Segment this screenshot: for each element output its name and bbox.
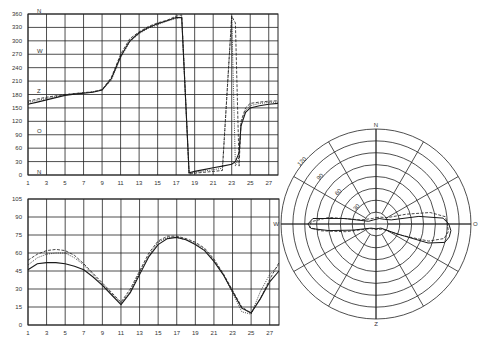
x-tick-label: 21 <box>211 330 218 336</box>
chart-figure: 1357911131517192123252703060901201501802… <box>0 0 479 345</box>
y-tick-label: 30 <box>15 286 22 292</box>
direction-label: W <box>273 221 279 227</box>
y-tick-label: 90 <box>15 214 22 220</box>
x-tick-label: 19 <box>191 180 198 186</box>
x-tick-label: 9 <box>100 180 104 186</box>
x-tick-label: 13 <box>136 330 143 336</box>
data-line-series-1 <box>28 237 279 313</box>
x-tick-label: 7 <box>82 180 86 186</box>
polar-chart: NZWO306090120 <box>273 122 478 327</box>
x-tick-label: 17 <box>173 180 180 186</box>
y-tick-label: 105 <box>12 196 23 202</box>
data-line-series-3 <box>28 16 278 174</box>
y-tick-label: 15 <box>15 304 22 310</box>
y-tick-label: 330 <box>12 24 23 30</box>
y-tick-label: 60 <box>15 145 22 151</box>
direction-annotation: N <box>37 169 41 175</box>
data-line-series-2 <box>28 236 279 313</box>
x-tick-label: 27 <box>266 330 273 336</box>
x-tick-label: 11 <box>117 180 124 186</box>
y-tick-label: 300 <box>12 38 23 44</box>
y-tick-label: 240 <box>12 65 23 71</box>
x-tick-label: 19 <box>192 330 199 336</box>
direction-annotation: O <box>37 128 42 134</box>
x-tick-label: 23 <box>229 330 236 336</box>
ring-label: 30 <box>352 202 361 211</box>
x-tick-label: 15 <box>154 180 161 186</box>
ring-label: 60 <box>334 187 343 196</box>
y-tick-label: 270 <box>12 51 23 57</box>
x-tick-label: 23 <box>228 180 235 186</box>
y-tick-label: 90 <box>15 132 22 138</box>
x-tick-label: 27 <box>265 180 272 186</box>
data-line-series-3 <box>28 237 279 314</box>
polar-curve-series-1 <box>308 216 451 243</box>
direction-annotation: Z <box>37 88 41 94</box>
direction-label: Z <box>374 321 378 327</box>
y-tick-label: 0 <box>19 172 23 178</box>
x-tick-label: 3 <box>45 180 49 186</box>
x-tick-label: 5 <box>64 330 68 336</box>
direction-label: N <box>374 122 378 128</box>
y-tick-label: 210 <box>12 78 23 84</box>
x-tick-label: 17 <box>173 330 180 336</box>
bottom-line-chart: 135791113151719212325270153045607590105 <box>12 196 279 336</box>
y-tick-label: 120 <box>12 118 23 124</box>
y-tick-label: 0 <box>19 322 23 328</box>
x-tick-label: 15 <box>155 330 162 336</box>
x-tick-label: 11 <box>118 330 125 336</box>
x-tick-label: 5 <box>63 180 67 186</box>
y-tick-label: 45 <box>15 268 22 274</box>
direction-annotation: N <box>37 8 41 14</box>
chart-canvas: 1357911131517192123252703060901201501802… <box>0 0 479 345</box>
direction-annotation: W <box>37 48 43 54</box>
y-tick-label: 60 <box>15 250 22 256</box>
y-tick-label: 180 <box>12 92 23 98</box>
ring-label: 90 <box>316 172 325 181</box>
ring-label: 120 <box>296 155 308 167</box>
x-tick-label: 13 <box>136 180 143 186</box>
direction-label: O <box>473 221 478 227</box>
y-tick-label: 360 <box>12 11 23 17</box>
x-tick-label: 1 <box>26 330 30 336</box>
x-tick-label: 3 <box>45 330 49 336</box>
x-tick-label: 21 <box>210 180 217 186</box>
x-tick-label: 25 <box>248 330 255 336</box>
x-tick-label: 25 <box>247 180 254 186</box>
x-tick-label: 7 <box>82 330 86 336</box>
x-tick-label: 9 <box>101 330 105 336</box>
top-line-chart: 1357911131517192123252703060901201501802… <box>12 8 278 187</box>
x-tick-label: 1 <box>26 180 30 186</box>
y-tick-label: 150 <box>12 105 23 111</box>
y-tick-label: 75 <box>15 232 22 238</box>
y-tick-label: 30 <box>15 159 22 165</box>
